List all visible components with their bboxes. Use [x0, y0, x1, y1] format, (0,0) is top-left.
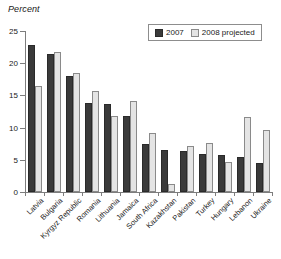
dark-swatch-icon [155, 29, 163, 37]
bar [263, 130, 270, 192]
x-tick-mark [272, 192, 273, 196]
y-axis-title: Percent [8, 4, 40, 14]
bar [206, 143, 213, 192]
bar-group [158, 31, 177, 192]
bar [85, 103, 92, 192]
y-tick-label: 25 [9, 27, 18, 36]
y-tick-label: 15 [9, 91, 18, 100]
bar [123, 116, 130, 192]
bar [218, 155, 225, 192]
bar [168, 184, 175, 192]
bar [161, 150, 168, 192]
bar-group [120, 31, 139, 192]
x-axis-labels: LatviaBulgariaKyrgyz RepublicRomaniaLith… [25, 196, 272, 256]
plot-area: 0510152025 [25, 31, 272, 192]
bar [35, 86, 42, 192]
bar [225, 162, 232, 192]
bar [149, 133, 156, 192]
bar [66, 76, 73, 192]
bar [28, 45, 35, 192]
bar [187, 146, 194, 192]
bar [199, 154, 206, 192]
bar-group [215, 31, 234, 192]
bar-group [82, 31, 101, 192]
bar [92, 91, 99, 192]
bar [54, 52, 61, 192]
bar [244, 117, 251, 192]
bar [130, 101, 137, 192]
legend-label-2008-projected: 2008 projected [202, 28, 255, 37]
bar [237, 157, 244, 192]
y-tick-label: 10 [9, 123, 18, 132]
bar [180, 151, 187, 192]
y-tick-label: 5 [14, 155, 18, 164]
bar [73, 73, 80, 192]
bar [47, 54, 54, 192]
bar-group [139, 31, 158, 192]
bar [111, 116, 118, 192]
legend-item-2008-projected: 2008 projected [191, 28, 255, 37]
bar-groups [25, 31, 272, 192]
chart-legend: 2007 2008 projected [148, 24, 262, 41]
bar [104, 104, 111, 192]
light-swatch-icon [191, 29, 199, 37]
bar-chart: Percent 0510152025 LatviaBulgariaKyrgyz … [0, 0, 281, 259]
bar-group [44, 31, 63, 192]
bar-group [196, 31, 215, 192]
bar-group [253, 31, 272, 192]
y-tick-label: 0 [14, 188, 18, 197]
bar-group [177, 31, 196, 192]
bar [256, 163, 263, 192]
legend-label-2007: 2007 [166, 28, 184, 37]
bar [142, 144, 149, 192]
legend-item-2007: 2007 [155, 28, 184, 37]
bar-group [63, 31, 82, 192]
bar-group [25, 31, 44, 192]
y-tick-label: 20 [9, 59, 18, 68]
bar-group [234, 31, 253, 192]
bar-group [101, 31, 120, 192]
